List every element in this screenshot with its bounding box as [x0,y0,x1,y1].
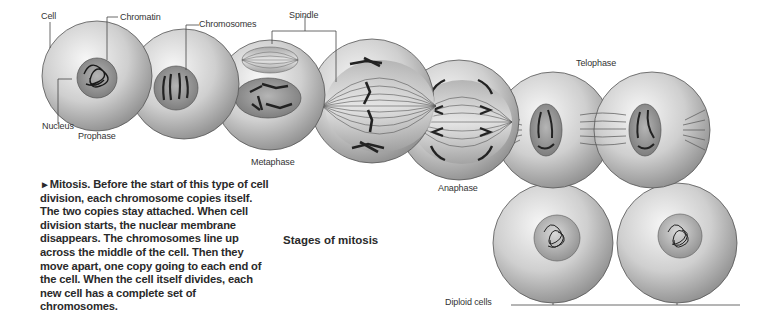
figure-title: Stages of mitosis [283,234,378,246]
label-cell: Cell [41,11,56,21]
caption-marker-icon: ► [40,179,50,190]
label-nucleus: Nucleus [42,121,74,131]
figure-caption: ►Mitosis. Before the start of this type … [40,178,270,314]
label-chromatin: Chromatin [120,12,161,22]
label-telophase: Telophase [576,58,616,68]
prophase-cell [42,21,152,131]
diploid-cell-left [493,183,613,303]
label-diploid-cells: Diploid cells [445,297,492,307]
label-metaphase: Metaphase [251,157,295,167]
label-prophase: Prophase [78,131,116,141]
label-spindle: Spindle [289,10,318,20]
label-anaphase: Anaphase [438,183,478,193]
caption-text: Mitosis. Before the start of this type o… [40,178,269,312]
telophase-cells [495,72,710,188]
label-chromosomes: Chromosomes [199,19,256,29]
diploid-cell-right [617,183,737,303]
